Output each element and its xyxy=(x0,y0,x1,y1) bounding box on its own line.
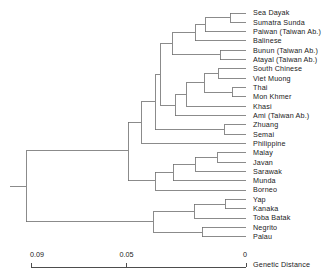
leaf-label: Toba Batak xyxy=(253,214,290,221)
leaf-label: Viet Muong xyxy=(253,75,291,82)
leaf-label: Ami (Taiwan Ab.) xyxy=(253,112,309,119)
leaf-label: Negrito xyxy=(253,224,277,231)
leaf-label: South Chinese xyxy=(253,65,302,72)
leaf-label: Sumatra Sunda xyxy=(253,19,305,26)
leaf-label: Malay xyxy=(253,149,273,156)
tree-branch-lines xyxy=(10,13,246,237)
leaf-label: Kanaka xyxy=(253,205,278,212)
axis-tick-label: 0.09 xyxy=(30,251,44,258)
axis-tick-label: 0.05 xyxy=(120,251,134,258)
leaf-label: Semai xyxy=(253,131,274,138)
axis-caption: Genetic Distance xyxy=(253,261,310,268)
leaf-label: Bunun (Taiwan Ab.) xyxy=(253,47,318,54)
leaf-label: Paiwan (Taiwan Ab.) xyxy=(253,28,321,35)
leaf-label: Sarawak xyxy=(253,168,282,175)
leaf-label: Javan xyxy=(253,159,273,166)
leaf-label: Sea Dayak xyxy=(253,9,290,16)
leaf-label: Khasi xyxy=(253,103,272,110)
leaf-label: Munda xyxy=(253,177,276,184)
leaf-label: Balinese xyxy=(253,37,282,44)
leaf-label: Mon Khmer xyxy=(253,93,292,100)
leaf-label: Atayal (Taiwan Ab.) xyxy=(253,56,317,63)
dendrogram-figure: Sea DayakSumatra SundaPaiwan (Taiwan Ab.… xyxy=(0,0,335,278)
leaf-label: Thai xyxy=(253,84,268,91)
leaf-label: Palau xyxy=(253,233,272,240)
axis-tick-label: 0 xyxy=(243,251,247,258)
axis-line-group xyxy=(31,263,246,267)
leaf-label: Philippine xyxy=(253,140,286,147)
leaf-label: Zhuang xyxy=(253,121,278,128)
leaf-label: Borneo xyxy=(253,186,277,193)
leaf-label: Yap xyxy=(253,196,266,203)
